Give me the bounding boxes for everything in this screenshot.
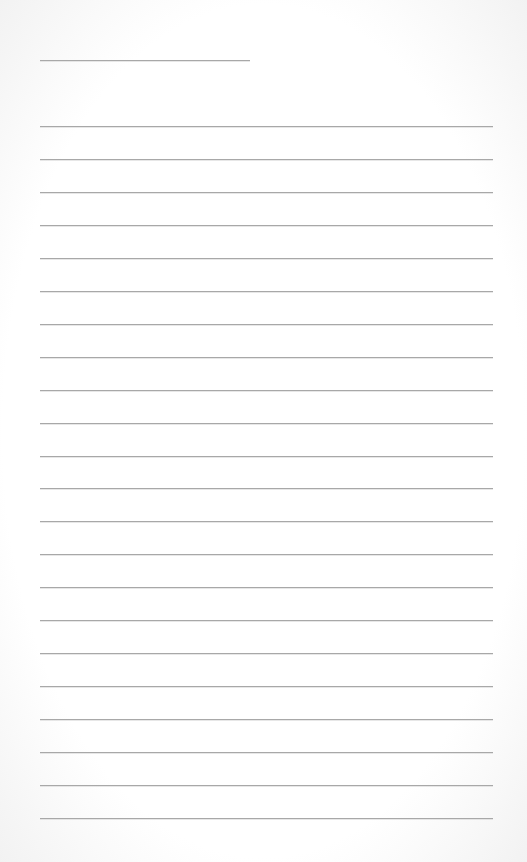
ruled-line <box>40 785 493 786</box>
ruled-line <box>40 456 493 457</box>
ruled-line <box>40 423 493 424</box>
ruled-line <box>40 291 493 292</box>
ruled-line <box>40 225 493 226</box>
ruled-line <box>40 653 493 654</box>
ruled-line <box>40 587 493 588</box>
ruled-line <box>40 719 493 720</box>
ruled-line <box>40 324 493 325</box>
ruled-line <box>40 554 493 555</box>
ruled-line <box>40 752 493 753</box>
lined-paper-page <box>0 0 527 862</box>
ruled-line <box>40 159 493 160</box>
ruled-line <box>40 818 493 819</box>
ruled-line <box>40 357 493 358</box>
ruled-line <box>40 488 493 489</box>
ruled-line <box>40 192 493 193</box>
ruled-line <box>40 390 493 391</box>
ruled-line <box>40 521 493 522</box>
ruled-line <box>40 686 493 687</box>
ruled-line <box>40 258 493 259</box>
ruled-line <box>40 126 493 127</box>
ruled-line <box>40 620 493 621</box>
ruled-lines <box>0 0 527 862</box>
